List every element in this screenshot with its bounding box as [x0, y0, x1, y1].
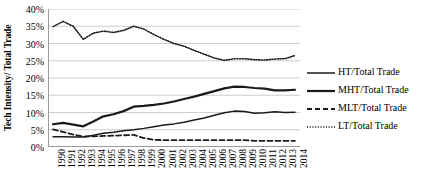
x-axis-tick-label: 2011 [268, 149, 278, 168]
x-axis-tick-label: 1997 [127, 149, 137, 168]
y-axis-tick-label: 25% [14, 55, 44, 66]
x-axis-tick-label: 2002 [178, 149, 188, 168]
legend-swatch-dashed [306, 101, 336, 113]
x-axis-tick-label: 2013 [288, 149, 298, 168]
legend-label: HT/Total Trade [338, 66, 400, 77]
x-axis-tick-label: 2014 [299, 149, 309, 168]
x-axis-tick-label: 1995 [107, 149, 117, 168]
x-axis-tick-label: 2007 [228, 149, 238, 168]
y-axis-tick-labels: 0%5%10%15%20%25%30%35%40% [14, 0, 44, 191]
x-axis-tick-label: 2000 [157, 149, 167, 168]
y-axis-tick-label: 35% [14, 21, 44, 32]
legend-label: LT/Total Trade [338, 120, 398, 131]
legend-item[interactable]: MHT/Total Trade [306, 80, 424, 98]
x-axis-tick-label: 1998 [137, 149, 147, 168]
y-axis-tick-label: 20% [14, 73, 44, 84]
x-axis-tick-label: 2004 [198, 149, 208, 168]
x-axis-tick-label: 2008 [238, 149, 248, 168]
x-axis-tick-label: 1994 [97, 149, 107, 168]
x-axis-tick-label: 2009 [248, 149, 258, 168]
x-axis-tick-label: 1991 [67, 149, 77, 168]
y-axis-tick-label: 30% [14, 38, 44, 49]
chart-svg [48, 9, 300, 147]
x-axis-tick-label: 2010 [258, 149, 268, 168]
legend-label: MLT/Total Trade [338, 102, 407, 113]
x-axis-tick-label: 1993 [87, 149, 97, 168]
plot-area [48, 9, 300, 147]
y-axis-title: Tech Intensity/ Total Trade [3, 24, 13, 131]
legend-item[interactable]: LT/Total Trade [306, 116, 424, 134]
y-axis-tick-label: 10% [14, 107, 44, 118]
x-axis-tick-label: 1996 [117, 149, 127, 168]
x-axis-tick-label: 1999 [147, 149, 157, 168]
y-axis-tick-label: 0% [14, 142, 44, 153]
y-axis-tick-label: 15% [14, 90, 44, 101]
x-axis-tick-label: 2003 [188, 149, 198, 168]
y-axis-tick-label: 5% [14, 124, 44, 135]
x-axis-tick-label: 2012 [278, 149, 288, 168]
x-axis-tick-labels: 1990199119921993199419951996199719981999… [48, 147, 300, 191]
legend-item[interactable]: HT/Total Trade [306, 62, 424, 80]
x-axis-tick-label: 2005 [208, 149, 218, 168]
legend-swatch-solid-thin [306, 65, 336, 77]
x-axis-tick-label: 1990 [57, 149, 67, 168]
series-line [53, 129, 295, 140]
series-line [53, 87, 295, 127]
legend-swatch-dotted [306, 119, 336, 131]
series-line [53, 21, 295, 60]
x-axis-tick-label: 1992 [77, 149, 87, 168]
legend-label: MHT/Total Trade [338, 84, 409, 95]
x-axis-tick-label: 2001 [168, 149, 178, 168]
y-axis-tick-label: 40% [14, 4, 44, 15]
legend-swatch-solid-thick [306, 83, 336, 95]
legend-item[interactable]: MLT/Total Trade [306, 98, 424, 116]
chart-figure: Tech Intensity/ Total Trade 0%5%10%15%20… [0, 0, 426, 191]
x-axis-tick-label: 2006 [218, 149, 228, 168]
chart-legend: HT/Total TradeMHT/Total TradeMLT/Total T… [306, 62, 424, 134]
